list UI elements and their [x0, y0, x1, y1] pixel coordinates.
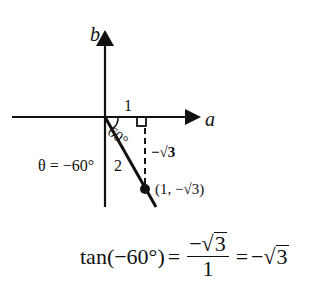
fraction: −√3 1: [187, 232, 229, 281]
point-label: (1, −√3): [155, 182, 204, 197]
opposite-label: −√3: [151, 145, 175, 160]
a-axis-arrow-icon: [185, 109, 201, 125]
radicand: 3: [276, 245, 289, 268]
radical-icon: √: [264, 244, 276, 269]
equals-sign: =: [168, 244, 180, 270]
radicand: 3: [214, 232, 227, 255]
adjacent-label: 1: [124, 98, 132, 114]
right-angle-marker: [137, 117, 146, 126]
radical-icon: √: [202, 231, 214, 256]
fraction-numerator: −√3: [187, 232, 229, 257]
fraction-denominator: 1: [202, 257, 213, 281]
theta-label: θ = −60°: [38, 158, 94, 174]
b-axis-label: b: [90, 24, 100, 44]
equals-sign: =: [236, 244, 248, 270]
tangent-equation: tan(−60°) = −√3 1 = −√3: [80, 232, 289, 282]
minus-sign: −: [251, 244, 263, 269]
minus-sign: −: [189, 231, 201, 256]
a-axis-label: a: [205, 109, 215, 129]
equation-lhs: tan(−60°): [80, 244, 165, 270]
equation-rhs: −√3: [251, 244, 289, 270]
point-marker: [140, 184, 150, 194]
hypotenuse-label: 2: [114, 158, 122, 174]
